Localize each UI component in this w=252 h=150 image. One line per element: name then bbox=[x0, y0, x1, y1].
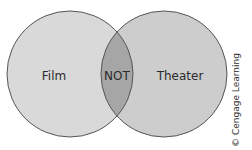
intersection-label: NOT bbox=[104, 69, 130, 83]
theater-label: Theater bbox=[157, 69, 204, 83]
film-label: Film bbox=[42, 69, 66, 83]
copyright-credit: © Cengage Learning bbox=[231, 53, 241, 147]
